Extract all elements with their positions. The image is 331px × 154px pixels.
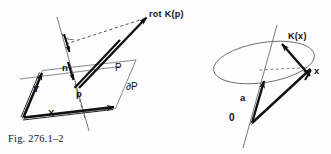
- radius-dashed-line: [260, 68, 309, 71]
- right-diagram-group: [210, 25, 317, 148]
- figure-drawing: [0, 0, 331, 154]
- vector-Y-arrow: [24, 73, 43, 118]
- label-point-x: x: [314, 66, 320, 76]
- rot-k-p-secondary-arrow: [75, 40, 121, 88]
- label-point-p: p: [76, 89, 82, 99]
- rot-k-p-arrow: [79, 18, 147, 89]
- label-axis-vector-a: a: [240, 93, 246, 103]
- figure-caption: Fig. 276.1–2: [8, 133, 64, 144]
- label-normal-n: n: [62, 63, 68, 73]
- label-K-of-x: K(x): [288, 32, 307, 41]
- figure-container: rot K(p) n p X Y P ∂P K(x) x a 0 Fig. 27…: [0, 0, 331, 154]
- rotation-axis-line: [243, 25, 277, 148]
- vector-Y-sideline: [21, 73, 40, 118]
- origin-point-dot: [250, 122, 252, 124]
- label-vector-Y: Y: [33, 84, 40, 94]
- left-diagram-group: [20, 17, 147, 131]
- vector-K-of-x-arrow: [282, 44, 310, 76]
- label-boundary-dP: ∂P: [126, 82, 138, 92]
- label-rot-k-p: rot K(p): [149, 10, 184, 19]
- label-origin-0: 0: [229, 113, 235, 123]
- vector-X-underline: [23, 110, 113, 121]
- label-vector-X: X: [48, 108, 55, 118]
- vector-X-arrow: [24, 107, 114, 118]
- label-surface-P: P: [115, 63, 122, 73]
